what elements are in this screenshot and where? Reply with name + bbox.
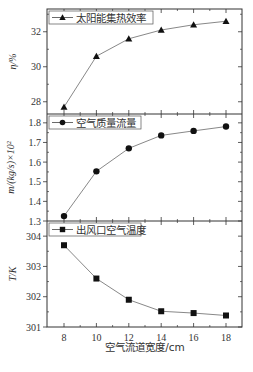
triangle-marker xyxy=(93,53,100,59)
x-tick-label: 8 xyxy=(62,332,67,343)
y-tick-label: 301 xyxy=(26,322,41,333)
y-tick-label: 303 xyxy=(26,261,41,272)
plot-border xyxy=(47,9,242,327)
data-line xyxy=(64,127,226,217)
legend-label: 空气质量流量 xyxy=(76,117,137,129)
square-marker xyxy=(158,308,164,314)
legend-square-icon xyxy=(60,227,65,232)
legend-label: 出风口空气温度 xyxy=(76,224,147,236)
circle-marker xyxy=(158,132,164,138)
square-marker xyxy=(223,312,229,318)
y-tick-label: 1.7 xyxy=(29,137,42,148)
y-tick-label: 32 xyxy=(31,26,41,37)
legend-label: 太阳能集热效率 xyxy=(76,12,146,24)
x-tick-label: 16 xyxy=(189,332,199,343)
y-tick-label: 30 xyxy=(31,61,41,72)
y-tick-label: 304 xyxy=(26,231,41,242)
panel-efficiency: 283032η/%太阳能集热效率 xyxy=(7,9,242,114)
y-axis-title: T/K xyxy=(7,265,18,281)
data-line xyxy=(64,21,226,107)
circle-marker xyxy=(61,213,67,219)
circle-marker xyxy=(93,168,99,174)
y-tick-label: 1.3 xyxy=(29,216,42,227)
data-line xyxy=(64,245,226,315)
stacked-line-chart: 283032η/%太阳能集热效率1.31.41.51.61.71.8m/(kg/… xyxy=(0,0,253,372)
triangle-marker xyxy=(223,18,230,24)
circle-marker xyxy=(190,128,196,134)
panel-mass-flow: 1.31.41.51.61.71.8m/(kg/s)×10²空气质量流量 xyxy=(5,114,242,227)
y-tick-label: 302 xyxy=(26,291,41,302)
square-marker xyxy=(126,297,132,303)
y-tick-label: 1.5 xyxy=(29,176,42,187)
y-tick-label: 1.6 xyxy=(29,157,42,168)
square-marker xyxy=(61,242,67,248)
triangle-marker xyxy=(61,104,68,110)
chart-frame xyxy=(47,9,242,327)
x-axis-label: 空气流道宽度/cm xyxy=(105,341,185,353)
circle-marker xyxy=(126,145,132,151)
y-tick-label: 28 xyxy=(31,96,41,107)
y-tick-label: 1.8 xyxy=(29,117,42,128)
panel-outlet-temperature: 301302303304T/K出风口空气温度 xyxy=(7,221,242,333)
y-tick-label: 1.4 xyxy=(29,196,42,207)
x-tick-label: 10 xyxy=(91,332,101,343)
square-marker xyxy=(191,310,197,316)
chart-panels: 283032η/%太阳能集热效率1.31.41.51.61.71.8m/(kg/… xyxy=(5,9,242,333)
y-axis-title: m/(kg/s)×10² xyxy=(5,140,17,194)
y-axis-title: η/% xyxy=(7,53,18,69)
circle-marker xyxy=(223,123,229,129)
legend-circle-icon xyxy=(60,120,66,126)
square-marker xyxy=(93,276,99,282)
x-tick-label: 18 xyxy=(221,332,231,343)
